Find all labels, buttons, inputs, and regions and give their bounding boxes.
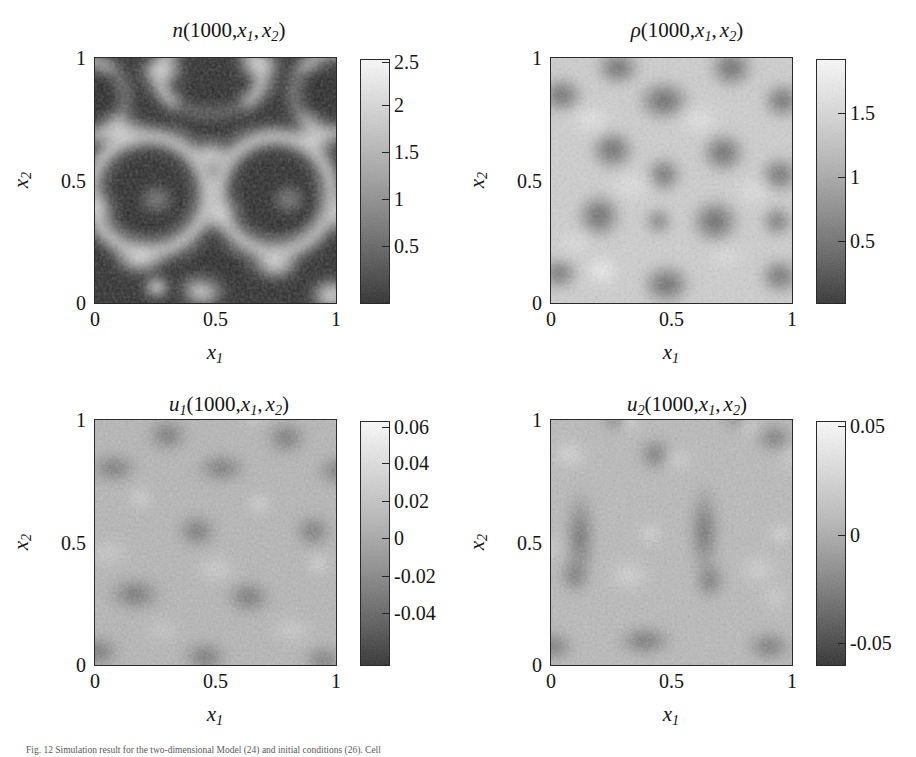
panel-u2-ytick-1: 1 — [508, 409, 542, 432]
panel-n-title-comma: , — [254, 18, 259, 42]
panel-n-ytick-0: 0 — [52, 292, 86, 315]
panel-n-cbar-label-05: 0.5 — [394, 235, 419, 258]
panel-n-cbar-tickmark — [382, 152, 390, 153]
panel-rho-cbar-label-05: 0.5 — [850, 230, 875, 253]
panel-n-title-x1: x — [237, 18, 246, 42]
panel-u2: u2(1000,x1,x2) — [458, 380, 916, 720]
panel-n-cbar-tickmark — [382, 246, 390, 247]
panel-u1-cbar-label-006: 0.06 — [394, 416, 429, 439]
panel-n-cbar-tickmark — [382, 62, 390, 63]
panel-u1-title-symbol: u — [169, 392, 180, 416]
panel-n-title-x1-sub: 1 — [247, 28, 254, 44]
panel-n-cbar-tickmark — [382, 199, 390, 200]
panel-rho-title-symbol: ρ — [631, 18, 641, 42]
panel-u2-title-symbol-sub: 2 — [637, 402, 644, 418]
panel-n-cbar-label-15: 1.5 — [394, 141, 419, 164]
panel-u1-cbar-label-n004: -0.04 — [394, 602, 436, 625]
panel-u2-cbar-label-0: 0 — [850, 524, 860, 547]
panel-n-ytick-05: 0.5 — [38, 169, 86, 192]
panel-rho-cbar-tickmark — [838, 241, 846, 242]
panel-n-title-x2: x — [262, 18, 271, 42]
panel-u2-title-symbol: u — [627, 392, 638, 416]
panel-rho-ytick-0: 0 — [508, 292, 542, 315]
panel-u1-title-comma: , — [257, 392, 262, 416]
panel-u1-cbar-tickmark — [382, 427, 390, 428]
panel-rho-heatmap-image — [551, 58, 792, 303]
panel-u1-colorbar — [361, 422, 389, 665]
panel-u2-title-close: ) — [740, 392, 747, 416]
panel-u1-title-symbol-sub: 1 — [179, 402, 186, 418]
panel-u1-heatmap-image — [95, 420, 336, 665]
panel-u2-xlabel: x1 — [663, 702, 679, 729]
panel-u2-xtick-05: 0.5 — [659, 670, 684, 693]
panel-u2-colorbar-grain — [817, 422, 845, 665]
panel-n-xtick-0: 0 — [90, 308, 100, 331]
panel-u1-cbar-label-002: 0.02 — [394, 490, 429, 513]
panel-u2-ylabel: x2 — [465, 534, 492, 550]
panel-n-colorbar — [361, 60, 389, 303]
panel-u1-title-x2-sub: 2 — [275, 402, 282, 418]
panel-rho-cbar-tickmark — [838, 177, 846, 178]
panel-rho-cbar-label-15: 1.5 — [850, 102, 875, 125]
panel-u2-heatmap-image — [551, 420, 792, 665]
panel-n-colorbar-grain — [361, 60, 389, 303]
panel-n-title-symbol: n — [173, 18, 184, 42]
panel-u1-cbar-tickmark — [382, 538, 390, 539]
panel-u1-cbar-label-0: 0 — [394, 527, 404, 550]
panel-rho-ytick-1: 1 — [508, 47, 542, 70]
panel-rho-colorbar — [817, 60, 845, 303]
panel-u2-title-comma: , — [715, 392, 720, 416]
panel-u1: u1(1000,x1,x2) — [0, 380, 458, 720]
panel-u2-cbar-tickmark — [838, 535, 846, 536]
panel-rho-title-close: ) — [736, 18, 743, 42]
panel-u1-xlabel: x1 — [207, 702, 223, 729]
panel-n-heatmap-image — [95, 58, 336, 303]
panel-u2-ytick-05: 0.5 — [494, 531, 542, 554]
panel-rho-xtick-0: 0 — [546, 308, 556, 331]
panel-n-title-open: (1000, — [183, 18, 237, 42]
panel-u2-ytick-0: 0 — [508, 654, 542, 677]
panel-u1-title-x1: x — [241, 392, 250, 416]
panel-u1-ytick-1: 1 — [52, 409, 86, 432]
panel-u1-xtick-1: 1 — [331, 670, 341, 693]
panel-n-xtick-1: 1 — [331, 308, 341, 331]
panel-rho-title-x2: x — [720, 18, 729, 42]
panel-u1-title-x2: x — [266, 392, 275, 416]
panel-rho-plot-area — [551, 58, 792, 303]
panel-rho-xlabel: x1 — [663, 340, 679, 367]
panel-rho-title-x1-sub: 1 — [704, 28, 711, 44]
panel-rho-title: ρ(1000,x1,x2) — [458, 18, 916, 45]
panel-u1-cbar-label-n002: -0.02 — [394, 565, 436, 588]
panel-u1-plot-area — [95, 420, 336, 665]
panel-n-cbar-label-1: 1 — [394, 188, 404, 211]
panel-u1-ytick-05: 0.5 — [38, 531, 86, 554]
panel-u2-title-x1: x — [699, 392, 708, 416]
panel-n-title-close: ) — [278, 18, 285, 42]
panel-u2-xtick-0: 0 — [546, 670, 556, 693]
panel-u2-colorbar — [817, 422, 845, 665]
panel-u2-title-x2-sub: 2 — [733, 402, 740, 418]
panel-n-xtick-05: 0.5 — [203, 308, 228, 331]
panel-u2-cbar-tickmark — [838, 643, 846, 644]
panel-rho-title-x1: x — [695, 18, 704, 42]
panel-rho-title-open: (1000, — [641, 18, 695, 42]
panel-n-title: n(1000,x1,x2) — [0, 18, 458, 45]
panel-n-cbar-label-25: 2.5 — [394, 51, 419, 74]
panel-u1-cbar-tickmark — [382, 613, 390, 614]
panel-n: n(1000,x1,x2) — [0, 0, 458, 380]
panel-n-cbar-label-2: 2 — [394, 94, 404, 117]
panel-u1-cbar-tickmark — [382, 463, 390, 464]
panel-n-plot-area — [95, 58, 336, 303]
panel-rho-xtick-05: 0.5 — [659, 308, 684, 331]
panel-u1-cbar-label-004: 0.04 — [394, 452, 429, 475]
panel-u1-title-open: (1000, — [187, 392, 241, 416]
panel-n-ylabel: x2 — [9, 172, 36, 188]
panel-rho-colorbar-grain — [817, 60, 845, 303]
panel-n-ytick-1: 1 — [52, 47, 86, 70]
figure-caption: Fig. 12 Simulation result for the two-di… — [26, 744, 898, 757]
panel-u2-xtick-1: 1 — [787, 670, 797, 693]
panel-rho: ρ(1000,x1,x2) — [458, 0, 916, 380]
panel-rho-title-comma: , — [712, 18, 717, 42]
panel-rho-ylabel: x2 — [465, 172, 492, 188]
panel-u1-xtick-0: 0 — [90, 670, 100, 693]
